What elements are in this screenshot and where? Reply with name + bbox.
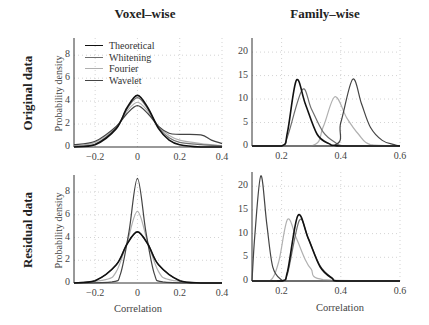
y-tick-label: 15: [230, 203, 248, 214]
y-tick-label: 0: [52, 276, 70, 287]
panel-voxel-residual: [74, 175, 222, 283]
x-tick-label: 0.4: [329, 150, 353, 161]
legend-item-fourier: Fourier: [85, 63, 155, 75]
legend-swatch-wavelet: [85, 80, 103, 81]
legend-label: Fourier: [109, 63, 138, 74]
series-wavelet: [74, 178, 222, 283]
series-fourier: [252, 97, 400, 146]
panel-family-residual: [252, 172, 400, 281]
legend-label: Theoretical: [109, 40, 155, 51]
x-tick-label: 0.2: [270, 150, 294, 161]
y-tick-label: 6: [52, 208, 70, 219]
y-tick-label: 8: [52, 48, 70, 59]
y-tick-label: 8: [52, 185, 70, 196]
legend-label: Wavelet: [109, 75, 142, 86]
x-tick-label: 0.6: [388, 150, 412, 161]
legend-label: Whitening: [109, 52, 151, 63]
panel-family-original: [252, 38, 400, 146]
legend-item-theoretical: Theoretical: [85, 40, 155, 52]
legend-swatch-whitening: [85, 57, 103, 58]
x-tick-label: 0: [125, 151, 149, 162]
y-tick-label: 10: [230, 227, 248, 238]
y-tick-label: 4: [52, 94, 70, 105]
y-tick-label: 5: [230, 250, 248, 261]
x-tick-label: 0: [125, 287, 149, 298]
legend-item-whitening: Whitening: [85, 52, 155, 64]
x-tick-label: 0.2: [168, 151, 192, 162]
y-tick-label: 20: [230, 45, 248, 56]
x-tick-label: −0.2: [83, 151, 107, 162]
x-tick-label: 0.4: [329, 285, 353, 296]
legend-swatch-theoretical: [85, 45, 103, 46]
x-tick-label: 0.2: [168, 287, 192, 298]
y-tick-label: 15: [230, 69, 248, 80]
series-whitening: [74, 232, 222, 283]
y-tick-label: 0: [52, 140, 70, 151]
y-tick-label: 0: [230, 139, 248, 150]
series-whitening: [74, 98, 222, 147]
legend-item-wavelet: Wavelet: [85, 75, 155, 87]
x-tick-label: 0.4: [210, 287, 234, 298]
y-tick-label: 5: [230, 116, 248, 127]
series-wavelet: [252, 176, 400, 281]
x-tick-label: 0.6: [388, 285, 412, 296]
x-tick-label: 0.2: [270, 285, 294, 296]
y-tick-label: 6: [52, 71, 70, 82]
series-theoretical: [74, 232, 222, 283]
x-tick-label: −0.2: [83, 287, 107, 298]
x-tick-label: 0.4: [210, 151, 234, 162]
series-theoretical: [74, 95, 222, 147]
y-tick-label: 2: [52, 253, 70, 264]
y-tick-label: 10: [230, 92, 248, 103]
legend: Theoretical Whitening Fourier Wavelet: [85, 40, 155, 86]
y-tick-label: 2: [52, 117, 70, 128]
legend-swatch-fourier: [85, 68, 103, 69]
y-tick-label: 20: [230, 179, 248, 190]
y-tick-label: 4: [52, 231, 70, 242]
y-tick-label: 0: [230, 274, 248, 285]
